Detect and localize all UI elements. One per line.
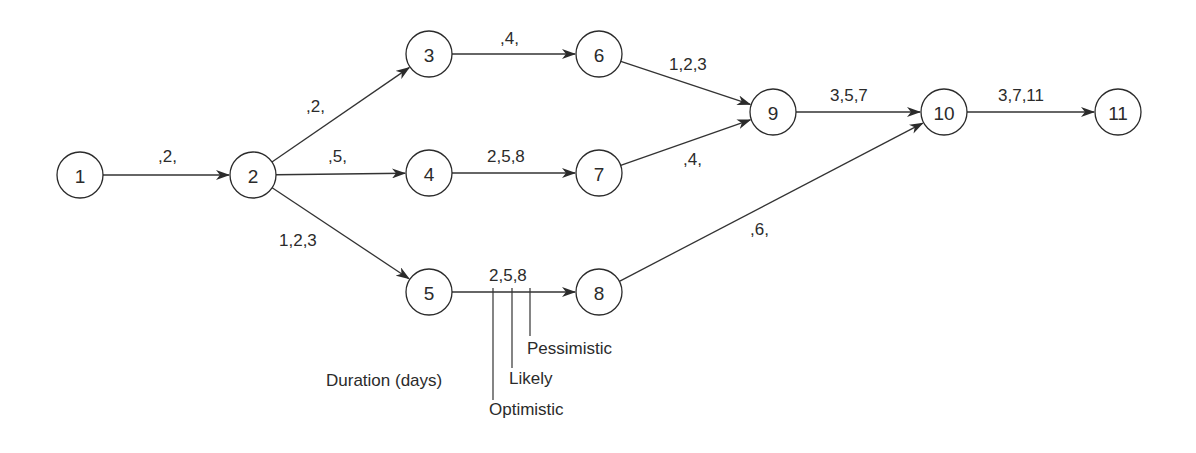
edge-duration-label: 1,2,3: [279, 231, 317, 250]
node-label: 9: [768, 103, 779, 124]
edge-duration-label: 1,2,3: [669, 55, 707, 74]
node-6: 6: [576, 31, 622, 77]
node-1: 1: [57, 152, 103, 198]
nodes-layer: 1234567891011: [57, 31, 1141, 315]
node-label: 5: [424, 283, 435, 304]
diagram-svg: ,2,,2,,5,1,2,3,4,2,5,82,5,81,2,3,4,,6,3,…: [0, 0, 1196, 453]
node-label: 3: [424, 45, 435, 66]
node-label: 2: [248, 166, 259, 187]
edge-duration-label: ,2,: [306, 97, 325, 116]
edge-8-10: [619, 123, 922, 281]
node-label: 10: [933, 103, 954, 124]
duration-legend-title: Duration (days): [326, 371, 442, 390]
edge-duration-label: 3,5,7: [830, 86, 868, 105]
edge-duration-label: ,4,: [500, 29, 519, 48]
edge-duration-label: 3,7,11: [998, 86, 1044, 105]
edge-duration-label: ,4,: [683, 150, 702, 169]
edge-duration-label: ,2,: [158, 147, 177, 166]
node-3: 3: [406, 31, 452, 77]
edge-duration-label: ,5,: [328, 147, 347, 166]
node-8: 8: [576, 269, 622, 315]
node-label: 6: [594, 45, 605, 66]
node-2: 2: [230, 152, 276, 198]
edge-2-4: [276, 173, 405, 174]
edge-duration-label: 2,5,8: [487, 147, 525, 166]
node-label: 4: [424, 164, 435, 185]
node-7: 7: [576, 150, 622, 196]
likely-label: Likely: [509, 369, 553, 388]
edge-duration-label: ,6,: [750, 220, 769, 239]
node-label: 8: [594, 283, 605, 304]
node-label: 7: [594, 164, 605, 185]
node-label: 1: [75, 166, 86, 187]
edge-duration-label: 2,5,8: [489, 266, 527, 285]
node-5: 5: [406, 269, 452, 315]
arrow-line: [276, 173, 405, 174]
duration-legend: Duration (days) Optimistic Likely Pessim…: [326, 288, 613, 419]
optimistic-label: Optimistic: [489, 400, 564, 419]
node-label: 11: [1108, 103, 1128, 124]
node-4: 4: [406, 150, 452, 196]
node-11: 11: [1095, 89, 1141, 135]
node-9: 9: [750, 89, 796, 135]
arrow-line: [619, 123, 922, 281]
node-10: 10: [921, 89, 967, 135]
pessimistic-label: Pessimistic: [527, 339, 613, 358]
pert-diagram: ,2,,2,,5,1,2,3,4,2,5,82,5,81,2,3,4,,6,3,…: [0, 0, 1196, 453]
